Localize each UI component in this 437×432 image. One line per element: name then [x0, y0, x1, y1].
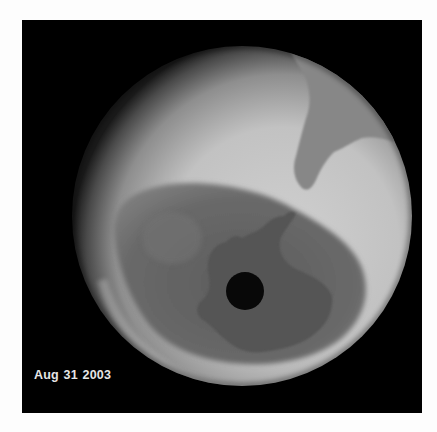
ozone-lighter-patch [142, 212, 202, 264]
image-frame: Aug 31 2003 [0, 0, 437, 432]
date-label: Aug 31 2003 [34, 368, 111, 382]
globe-panel: Aug 31 2003 [22, 20, 422, 413]
pole-data-gap [226, 272, 264, 310]
earth-globe [22, 20, 422, 413]
